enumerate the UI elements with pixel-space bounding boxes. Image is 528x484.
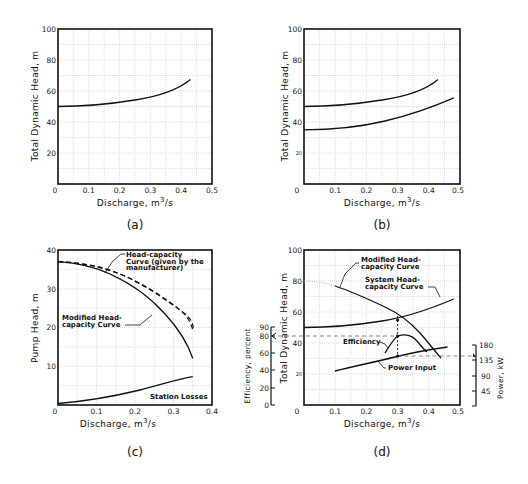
efficiency-axis-title: Efficiency, percent bbox=[243, 328, 252, 403]
power-axis-title: Power, kW bbox=[496, 357, 505, 399]
system-curve-a bbox=[58, 79, 190, 106]
svg-text:20: 20 bbox=[46, 149, 56, 158]
svg-text:0.2: 0.2 bbox=[114, 186, 126, 195]
svg-text:20: 20 bbox=[296, 150, 302, 156]
x-ticks-a: 0 0.1 0.2 0.3 0.4 0.5 bbox=[53, 186, 219, 195]
svg-text:0.4: 0.4 bbox=[423, 186, 435, 195]
svg-text:80: 80 bbox=[46, 56, 56, 65]
annotation-station-losses: Station Losses bbox=[150, 393, 208, 401]
svg-text:0.5: 0.5 bbox=[452, 186, 464, 195]
x-axis-title-c: Discharge, m3/s bbox=[80, 417, 156, 429]
svg-text:0: 0 bbox=[295, 407, 300, 416]
svg-text:0.2: 0.2 bbox=[129, 407, 141, 416]
svg-text:manufacturer): manufacturer) bbox=[126, 264, 183, 272]
svg-text:0.5: 0.5 bbox=[452, 407, 464, 416]
svg-text:0.3: 0.3 bbox=[144, 186, 156, 195]
svg-text:100: 100 bbox=[42, 25, 57, 34]
svg-text:capacity Curve: capacity Curve bbox=[62, 321, 121, 329]
svg-text:0.1: 0.1 bbox=[83, 186, 95, 195]
svg-text:capacity Curve: capacity Curve bbox=[365, 283, 424, 291]
svg-text:135: 135 bbox=[479, 356, 494, 365]
svg-text:0: 0 bbox=[295, 186, 300, 195]
svg-text:60: 60 bbox=[292, 87, 302, 96]
y-ticks-d: 100 80 60 40 20 bbox=[288, 246, 303, 377]
svg-text:20: 20 bbox=[259, 384, 269, 393]
svg-text:45: 45 bbox=[481, 387, 491, 396]
figure: 100 80 60 40 20 0 0.1 0.2 0.3 0.4 0.5 Di… bbox=[0, 0, 528, 484]
svg-text:0: 0 bbox=[53, 407, 58, 416]
annotation-manufacturer: Head-capacity Curve (given by the manufa… bbox=[105, 251, 204, 273]
modified-curve-start-d bbox=[304, 281, 335, 286]
svg-text:40: 40 bbox=[46, 118, 56, 127]
annotation-modified-c: Modified Head- capacity Curve bbox=[62, 314, 152, 329]
system-head-capacity-curve-d bbox=[304, 299, 454, 328]
svg-text:20: 20 bbox=[46, 323, 56, 332]
svg-text:0.1: 0.1 bbox=[91, 407, 103, 416]
svg-text:40: 40 bbox=[292, 118, 302, 127]
x-ticks-b: 0 0.1 0.2 0.3 0.4 0.5 bbox=[295, 186, 465, 195]
y-axis-title-d: Total Dynamic Head, m bbox=[279, 273, 289, 385]
svg-text:90: 90 bbox=[481, 372, 491, 381]
svg-text:0.3: 0.3 bbox=[392, 407, 404, 416]
svg-text:180: 180 bbox=[479, 341, 494, 350]
x-ticks-d: 0 0.1 0.2 0.3 0.4 0.5 bbox=[295, 407, 465, 416]
efficiency-curve bbox=[385, 335, 427, 353]
svg-text:90: 90 bbox=[259, 323, 269, 332]
svg-text:100: 100 bbox=[288, 246, 303, 255]
x-axis-title-a: Discharge, m3/s bbox=[97, 196, 173, 208]
svg-text:60: 60 bbox=[292, 308, 302, 317]
svg-text:40: 40 bbox=[292, 339, 302, 348]
svg-text:100: 100 bbox=[288, 25, 303, 34]
x-axis-title-d: Discharge, m3/s bbox=[344, 417, 420, 429]
svg-text:40: 40 bbox=[259, 366, 269, 375]
modified-head-capacity-curve-c bbox=[58, 262, 193, 359]
svg-text:60: 60 bbox=[259, 349, 269, 358]
svg-text:0.2: 0.2 bbox=[360, 407, 372, 416]
svg-text:capacity Curve: capacity Curve bbox=[361, 263, 420, 271]
svg-text:0.4: 0.4 bbox=[175, 186, 187, 195]
panel-c: Head-capacity Curve (given by the manufa… bbox=[30, 246, 218, 459]
efficiency-axis: 90 80 60 40 20 0 Efficiency, percent bbox=[243, 323, 275, 410]
svg-text:0.5: 0.5 bbox=[206, 186, 218, 195]
svg-text:0: 0 bbox=[53, 186, 58, 195]
svg-text:0.1: 0.1 bbox=[329, 186, 341, 195]
svg-text:80: 80 bbox=[292, 277, 302, 286]
y-axis-title-b: Total Dynamic Head, m bbox=[280, 51, 290, 163]
caption-a: (a) bbox=[127, 218, 144, 232]
svg-text:0.1: 0.1 bbox=[329, 407, 341, 416]
system-curve-upper-b bbox=[304, 79, 438, 106]
svg-text:0.4: 0.4 bbox=[423, 407, 435, 416]
svg-text:80: 80 bbox=[259, 332, 269, 341]
y-axis-title-a: Total Dynamic Head, m bbox=[30, 51, 40, 163]
svg-text:20: 20 bbox=[296, 371, 302, 377]
svg-text:0.4: 0.4 bbox=[206, 407, 218, 416]
annotation-power-input: Power Input bbox=[378, 361, 437, 372]
svg-text:80: 80 bbox=[292, 56, 302, 65]
caption-c: (c) bbox=[127, 445, 143, 459]
svg-text:0.2: 0.2 bbox=[360, 186, 372, 195]
caption-b: (b) bbox=[374, 218, 391, 232]
caption-d: (d) bbox=[374, 445, 391, 459]
panel-a: 100 80 60 40 20 0 0.1 0.2 0.3 0.4 0.5 Di… bbox=[30, 25, 218, 232]
svg-text:60: 60 bbox=[46, 87, 56, 96]
panel-b: 100 80 60 40 20 0 0.1 0.2 0.3 0.4 0.5 Di… bbox=[280, 25, 464, 232]
svg-text:30: 30 bbox=[46, 285, 56, 294]
svg-text:0: 0 bbox=[264, 401, 269, 410]
y-ticks-a: 100 80 60 40 20 bbox=[42, 25, 57, 158]
svg-text:10: 10 bbox=[46, 362, 56, 371]
system-curve-lower-b bbox=[304, 98, 454, 130]
y-ticks-c: 40 30 20 10 bbox=[46, 246, 56, 371]
svg-text:Power Input: Power Input bbox=[388, 364, 437, 372]
svg-text:40: 40 bbox=[46, 246, 56, 255]
svg-text:0.3: 0.3 bbox=[168, 407, 180, 416]
x-ticks-c: 0 0.1 0.2 0.3 0.4 bbox=[53, 407, 219, 416]
panel-d: 90 80 60 40 20 0 Efficiency, percent 180… bbox=[243, 246, 505, 459]
power-axis: 180 135 90 45 Power, kW bbox=[472, 341, 505, 406]
svg-text:0.3: 0.3 bbox=[392, 186, 404, 195]
annotation-efficiency: Efficiency bbox=[343, 338, 388, 348]
x-axis-title-b: Discharge, m3/s bbox=[344, 196, 420, 208]
y-axis-title-c: Pump Head, m bbox=[30, 293, 40, 363]
svg-text:Efficiency: Efficiency bbox=[343, 338, 381, 346]
